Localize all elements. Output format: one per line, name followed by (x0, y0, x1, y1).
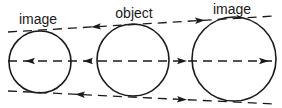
rays-layer (8, 16, 275, 104)
label-left-image: image (19, 12, 57, 26)
right-image-circle (192, 17, 276, 101)
object-circle (97, 24, 169, 96)
bottom-ray-dashed-line (8, 91, 275, 104)
left-image-circle (9, 31, 71, 93)
arrows-layer (25, 17, 269, 103)
diagram: image object image (0, 0, 282, 108)
circles-layer (9, 17, 276, 101)
arrowhead-left-icon (25, 58, 35, 64)
label-object: object (115, 6, 152, 20)
label-right-image: image (213, 2, 251, 16)
arrowhead-right-icon (259, 58, 269, 64)
